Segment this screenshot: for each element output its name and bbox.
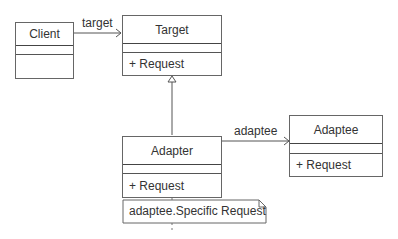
class-adapter[interactable]: Adapter + Request — [122, 136, 222, 198]
class-attributes — [123, 165, 221, 174]
class-operation: + Request — [290, 154, 382, 176]
class-attributes — [290, 144, 382, 154]
class-name: Adaptee — [290, 116, 382, 144]
class-name: Adapter — [123, 137, 221, 165]
class-attributes — [16, 46, 73, 55]
class-operation: + Request — [123, 53, 221, 75]
class-client[interactable]: Client — [15, 22, 74, 79]
class-name: Client — [16, 23, 73, 46]
class-target[interactable]: Target + Request — [122, 15, 222, 76]
class-adaptee[interactable]: Adaptee + Request — [289, 115, 383, 177]
class-operation: + Request — [123, 174, 221, 197]
class-operations — [16, 55, 73, 78]
note-text: adaptee.Specific Request — [129, 204, 266, 218]
association-label-target: target — [82, 16, 113, 30]
class-name: Target — [123, 16, 221, 44]
hollow-triangle-icon — [168, 76, 176, 82]
class-attributes — [123, 44, 221, 53]
association-label-adaptee: adaptee — [234, 124, 277, 138]
